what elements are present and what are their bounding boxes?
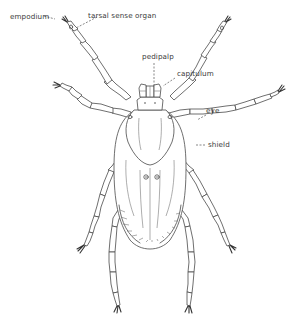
tick-anatomy-diagram: empodium tarsal sense organ pedipalp cap… (0, 0, 290, 327)
label-eye: eye (206, 107, 219, 114)
label-pedipalp: pedipalp (142, 53, 174, 60)
leg-4-right (178, 210, 195, 313)
tick-drawing (0, 0, 290, 327)
label-tarsal-sense-organ: tarsal sense organ (88, 12, 156, 19)
leg-4-left (109, 210, 123, 313)
label-shield: shield (208, 141, 230, 148)
capitulum (137, 84, 163, 110)
label-empodium: empodium (10, 13, 49, 20)
leg-1-right (170, 16, 231, 100)
leg-2-right (169, 85, 285, 118)
label-capitulum: capitulum (177, 70, 214, 77)
